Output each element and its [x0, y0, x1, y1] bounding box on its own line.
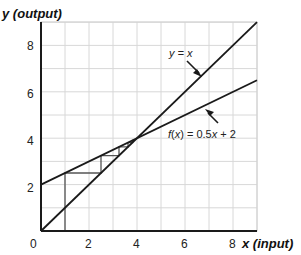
x-tick-4: 4 — [133, 237, 140, 251]
label-f-of-x: f(x) = 0.5x + 2 — [168, 128, 236, 140]
y-tick-2: 2 — [27, 181, 34, 195]
x-tick-6: 6 — [181, 237, 188, 251]
line-y-equals-x — [41, 22, 257, 231]
y-tick-4: 4 — [27, 134, 34, 148]
x-tick-8: 8 — [229, 237, 236, 251]
label-y-equals-x: y = x — [168, 47, 193, 59]
y-axis-title: y (output) — [1, 6, 62, 21]
x-axis-title: x (input) — [241, 236, 293, 251]
cobweb-chart: 0 2 4 6 8 2 4 6 8 y (output) x (input) y… — [0, 0, 301, 255]
x-tick-2: 2 — [85, 237, 92, 251]
tick-labels: 0 2 4 6 8 2 4 6 8 — [27, 39, 236, 251]
arrow-icon-f-of-x — [205, 109, 218, 123]
y-tick-8: 8 — [27, 39, 34, 53]
cobweb-path — [65, 140, 135, 231]
y-tick-6: 6 — [27, 87, 34, 101]
x-tick-0: 0 — [30, 237, 37, 251]
